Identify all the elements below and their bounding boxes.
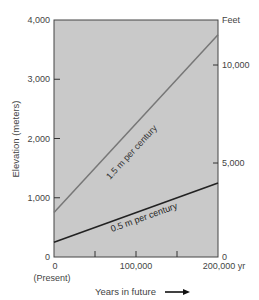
x-tick-200000: 200,000 yr — [203, 261, 246, 271]
x-tick-0: 0 — [52, 261, 57, 271]
y-axis-title: Elevation (meters) — [10, 100, 21, 177]
y-tick-2000: 2,000 — [27, 134, 50, 144]
feet-tick-5000: 5,000 — [222, 158, 245, 168]
y-tick-0: 0 — [45, 252, 50, 262]
y-tick-3000: 3,000 — [27, 74, 50, 84]
x-axis-title: Years in future — [95, 286, 156, 297]
arrow-right-icon — [165, 289, 190, 295]
y-tick-4000: 4,000 — [27, 15, 50, 25]
x-present-label: (Present) — [33, 273, 70, 283]
y-tick-1000: 1,000 — [27, 193, 50, 203]
elevation-chart: 4,000 3,000 2,000 1,000 0 Elevation (met… — [0, 0, 259, 300]
x-tick-100000: 100,000 — [120, 261, 153, 271]
feet-tick-10000: 10,000 — [222, 60, 250, 70]
right-axis-title: Feet — [222, 15, 241, 25]
